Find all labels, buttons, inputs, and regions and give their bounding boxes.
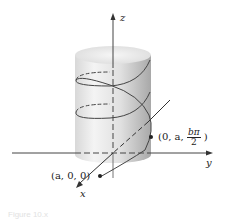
y-axis-label: y bbox=[206, 157, 212, 168]
fraction-denominator: 2 bbox=[187, 138, 201, 147]
point-label-0a-bpi2: (0, a, bπ 2 ) bbox=[158, 128, 208, 147]
point-0a-bpi2 bbox=[149, 135, 153, 139]
point-label-prefix: (0, a, bbox=[158, 131, 184, 142]
x-axis-label: x bbox=[80, 188, 86, 199]
figure-caption: Figure 10.x bbox=[8, 210, 48, 219]
point-label-a00: (a, 0, 0) bbox=[51, 170, 90, 181]
point-a00 bbox=[98, 174, 102, 178]
fraction: bπ 2 bbox=[187, 128, 201, 147]
z-axis-label: z bbox=[120, 12, 125, 23]
helix-diagram bbox=[0, 0, 226, 224]
point-label-suffix: ) bbox=[204, 131, 208, 142]
